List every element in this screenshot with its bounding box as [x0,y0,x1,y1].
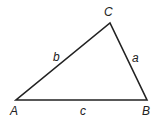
side-label-a: a [132,51,139,65]
side-label-c: c [80,104,86,118]
triangle-diagram: A B C a b c [0,0,156,122]
vertex-label-c: C [104,5,113,19]
triangle-abc [16,23,147,100]
vertex-label-a: A [9,104,18,118]
vertex-label-b: B [142,104,150,118]
side-label-b: b [53,50,60,64]
